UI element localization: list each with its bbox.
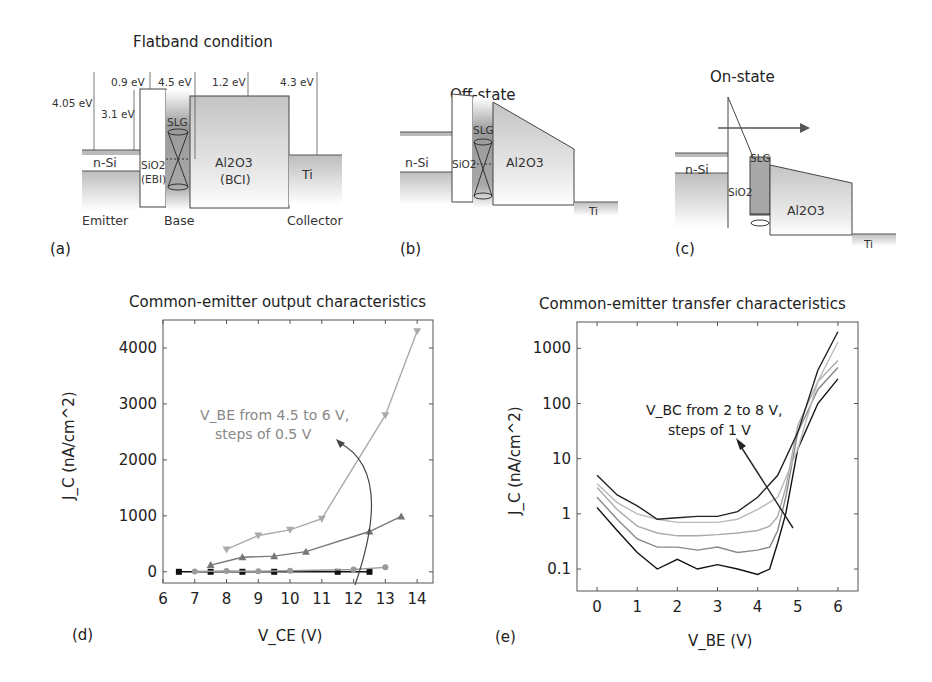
x-tick-label: 5 [793, 598, 803, 616]
data-series [597, 361, 838, 536]
y-tick-label: 0.1 [547, 560, 571, 578]
chart-e-xlabel: V_BE (V) [688, 632, 752, 650]
y-tick-label: 10 [552, 450, 571, 468]
plot-frame [577, 322, 858, 591]
x-tick-label: 1 [632, 598, 642, 616]
chart-e-annotation-line2: steps of 1 V [668, 422, 751, 438]
y-tick-label: 1000 [533, 339, 571, 357]
data-series [597, 367, 838, 552]
chart-e-annotation-line1: V_BC from 2 to 8 V, [646, 402, 782, 418]
chart-e-ylabel: J_C (nA/cm^2) [506, 406, 524, 515]
transfer-characteristics-chart: 01234560.11101001000 [0, 0, 932, 682]
x-tick-label: 6 [833, 598, 843, 616]
y-tick-label: 100 [542, 395, 571, 413]
y-tick-label: 1 [561, 505, 571, 523]
x-tick-label: 2 [673, 598, 683, 616]
x-tick-label: 4 [753, 598, 763, 616]
panel-label-e: (e) [495, 628, 516, 646]
x-tick-label: 3 [713, 598, 723, 616]
x-tick-label: 0 [592, 598, 602, 616]
